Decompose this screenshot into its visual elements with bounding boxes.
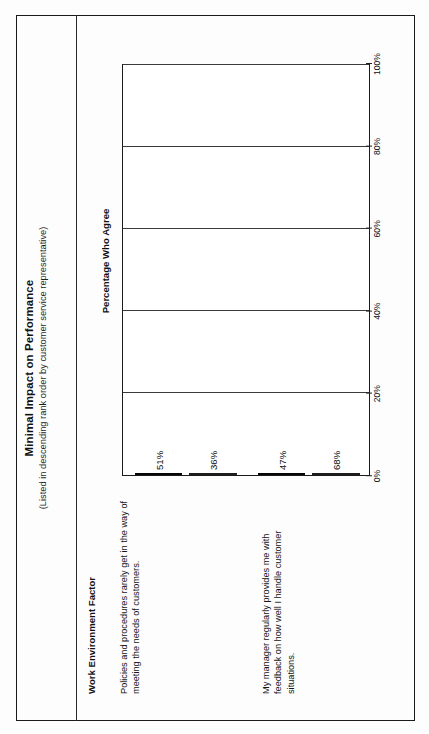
x-tick-mark-5 (366, 63, 372, 64)
category-label-column: Policies and procedures rarely get in th… (112, 489, 402, 694)
gridline-60 (123, 228, 369, 229)
title-block: Minimal Impact on Performance (Listed in… (22, 15, 50, 721)
bar-0-0[interactable] (135, 473, 183, 475)
x-tick-label-1: 20% (372, 385, 382, 402)
scanned-report-page: Minimal Impact on Performance (Listed in… (0, 0, 429, 734)
header-divider (76, 15, 77, 721)
page-subtitle: (Listed in descending rank order by cust… (37, 15, 50, 721)
category-label-1: My manager regularly provides me with fe… (260, 494, 297, 694)
gridline-20 (123, 392, 369, 393)
x-tick-label-2: 40% (372, 303, 382, 320)
x-tick-mark-1 (366, 393, 372, 394)
gridline-80 (123, 146, 369, 147)
gridline-40 (123, 310, 369, 311)
chart-plot-wrapper: Percentage Who Agree 51%36%47%68% 0%20%4… (100, 46, 402, 476)
bar-1-0[interactable] (258, 473, 306, 475)
x-tick-label-5: 100% (372, 53, 382, 75)
x-tick-mark-2 (366, 310, 372, 311)
bar-value-label-1-0: 47% (276, 451, 287, 470)
x-tick-mark-3 (366, 228, 372, 229)
x-tick-label-4: 80% (372, 138, 382, 155)
x-axis-ticks: 0%20%40%60%80%100% (372, 64, 386, 476)
rotated-page-stage: Minimal Impact on Performance (Listed in… (0, 0, 429, 734)
plot-area: 51%36%47%68% (122, 64, 370, 476)
x-axis-title: Percentage Who Agree (100, 46, 111, 476)
x-tick-label-3: 60% (372, 220, 382, 237)
column-header-work-environment-factor: Work Environment Factor (86, 577, 97, 694)
bar-0-1[interactable] (189, 473, 237, 475)
bar-value-label-0-0: 51% (153, 451, 164, 470)
category-label-0: Policies and procedures rarely get in th… (118, 494, 143, 694)
bar-value-label-0-1: 36% (207, 451, 218, 470)
gridline-100 (123, 64, 369, 65)
page-title: Minimal Impact on Performance (22, 15, 36, 721)
bar-1-1[interactable] (312, 473, 360, 475)
x-tick-mark-0 (366, 475, 372, 476)
x-tick-label-0: 0% (372, 470, 382, 482)
x-tick-mark-4 (366, 145, 372, 146)
bar-value-label-1-1: 68% (330, 451, 341, 470)
